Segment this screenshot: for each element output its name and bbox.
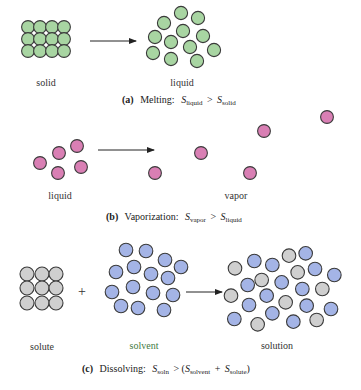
solution-label: solution (261, 340, 293, 351)
solvent-particles (105, 243, 188, 317)
liquid-molecule (52, 167, 65, 180)
solution-solvent-particle (296, 282, 310, 296)
solvent-particle (174, 260, 188, 274)
solute-particle (20, 281, 34, 295)
liquid-particle (174, 6, 187, 19)
solvent-particle (127, 260, 141, 274)
solvent-particle (144, 267, 158, 281)
solvent-particle (109, 265, 123, 279)
vapor-molecule (149, 167, 162, 180)
liquid-molecule (53, 147, 66, 160)
liquid-particle (207, 43, 220, 56)
vapor-particles (149, 111, 334, 180)
solid-particle (34, 21, 47, 34)
solvent-particle (158, 253, 172, 267)
solid-particle (22, 33, 35, 46)
plus-sign: + (78, 284, 86, 299)
solute-particles (20, 267, 63, 310)
liquid-particle (164, 35, 177, 48)
solute-particle (20, 296, 34, 310)
solution-solute-particle (228, 262, 242, 276)
solution-solvent-particle (228, 312, 242, 326)
solid-particle (46, 33, 59, 46)
vaporization-caption: (b) Vaporization: Svapor > Sliquid (106, 211, 242, 224)
solute-particle (20, 267, 34, 281)
vapor-molecule (244, 167, 257, 180)
solute-particle (49, 267, 63, 281)
solution-solvent-particle (300, 299, 314, 313)
melting-caption: (a) Melting: Sliquid > Ssolid (122, 94, 236, 107)
solvent-particle (166, 288, 180, 302)
solute-particle (35, 296, 49, 310)
solvent-particle (157, 303, 171, 317)
liquid-label-b: liquid (48, 190, 71, 201)
vapor-molecule (195, 147, 208, 160)
solid-particle (22, 21, 35, 34)
solution-solvent-particle (299, 247, 313, 261)
liquid-molecule (34, 157, 47, 170)
solid-label: solid (36, 77, 55, 88)
liquid-particles (146, 6, 220, 67)
solution-solvent-particle (275, 276, 289, 290)
solution-solvent-particle (242, 298, 256, 312)
liquid-particle (148, 30, 161, 43)
solid-particle (58, 21, 71, 34)
solution-solvent-particle (260, 289, 274, 303)
solute-particle (35, 267, 49, 281)
solution-solvent-particle (266, 258, 280, 272)
solvent-particle (139, 244, 153, 258)
solution-solute-particle (251, 318, 265, 332)
solution-solvent-particle (266, 307, 280, 321)
solvent-particle (126, 280, 140, 294)
dissolving-caption: (c) Dissolving: Ssoln > (Ssolvent + Ssol… (82, 363, 250, 376)
solid-particle (34, 33, 47, 46)
solution-solute-particle (224, 289, 238, 303)
liquid-particle (164, 52, 177, 65)
solution-solute-particle (255, 273, 269, 287)
liquid-particle (196, 29, 209, 42)
entropy-diagram: solid liquid (a) Melting: Sliquid > Ssol… (0, 0, 361, 390)
solution-solute-particle (291, 266, 305, 280)
solid-particle (58, 33, 71, 46)
solution-solute-particle (316, 282, 330, 296)
vapor-molecule (258, 125, 271, 138)
solvent-particle (161, 271, 175, 285)
solution-solvent-particle (248, 254, 262, 268)
panel-vaporization: liquid vapor (b) Vaporization: Svapor > … (34, 111, 334, 224)
liquid-particle (190, 54, 203, 67)
solute-particle (35, 281, 49, 295)
liquid-particle (176, 24, 189, 37)
solid-particle (58, 45, 71, 58)
liquid-particle (191, 11, 204, 24)
liquid-particle (146, 46, 159, 59)
solvent-particle (105, 285, 119, 299)
solution-solvent-particle (324, 302, 338, 316)
solid-particle (22, 45, 35, 58)
liquid-molecule (71, 140, 84, 153)
solvent-particle (131, 301, 145, 315)
solute-particle (49, 281, 63, 295)
solute-label: solute (30, 341, 54, 352)
solution-solvent-particle (287, 315, 301, 329)
liquid-label: liquid (170, 77, 193, 88)
liquid-particle (183, 40, 196, 53)
solvent-particle (146, 286, 160, 300)
solid-particles (22, 21, 71, 58)
vapor-label: vapor (225, 190, 248, 201)
solute-particle (49, 296, 63, 310)
solution-solute-particle (310, 313, 324, 327)
vapor-molecule (321, 111, 334, 124)
solution-solvent-particle (328, 268, 342, 282)
solid-particle (34, 45, 47, 58)
solid-particle (46, 45, 59, 58)
solution-particles (224, 247, 341, 332)
solution-solvent-particle (241, 278, 255, 292)
liquid-molecule (75, 161, 88, 174)
solid-particle (46, 21, 59, 34)
solution-solvent-particle (308, 262, 322, 276)
panel-dissolving: + solute solvent solution (c) Dissolving… (20, 243, 341, 376)
panel-melting: solid liquid (a) Melting: Sliquid > Ssol… (22, 6, 237, 107)
solvent-particle (114, 299, 128, 313)
solution-solute-particle (279, 296, 293, 310)
liquid-particle (157, 16, 170, 29)
